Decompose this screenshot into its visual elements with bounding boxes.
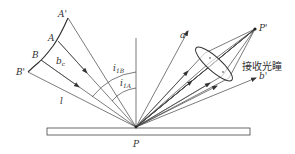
label-P: P bbox=[132, 139, 140, 149]
receiver-lens bbox=[191, 43, 236, 86]
label-B-prime: B' bbox=[15, 67, 25, 77]
label-B: B bbox=[31, 50, 39, 60]
label-i1B: i1B bbox=[113, 63, 125, 74]
lens-ray-upper-b bbox=[136, 64, 208, 127]
reflected-ray-b-prime bbox=[136, 78, 256, 127]
reflecting-surface bbox=[47, 128, 250, 135]
label-receiver-lens: 接收光瞳 bbox=[242, 60, 282, 72]
label-A-prime: A' bbox=[57, 9, 67, 19]
label-i1A: i1A bbox=[120, 78, 132, 89]
incidence-point-P bbox=[135, 126, 138, 129]
label-l: l bbox=[60, 96, 63, 106]
arrow-lens-2 bbox=[136, 81, 192, 127]
lens-point-1 bbox=[209, 57, 211, 59]
label-b-prime: b' bbox=[259, 71, 267, 81]
arrow-ray-A bbox=[58, 41, 87, 73]
label-P-prime: P' bbox=[258, 23, 268, 33]
arrow-lens-3 bbox=[136, 83, 210, 127]
arrow-lens-4 bbox=[136, 86, 217, 127]
label-a-prime: a' bbox=[180, 30, 188, 40]
ray-A-prime bbox=[68, 18, 136, 127]
focal-point-P-prime bbox=[253, 27, 256, 30]
label-A: A bbox=[47, 33, 55, 43]
label-b-c: bc bbox=[56, 56, 66, 67]
optical-reflection-diagram: A' A B B' bc l i1B i1A a' b' P' P 接收光瞳 bbox=[0, 0, 295, 154]
lens-point-2 bbox=[222, 71, 224, 73]
